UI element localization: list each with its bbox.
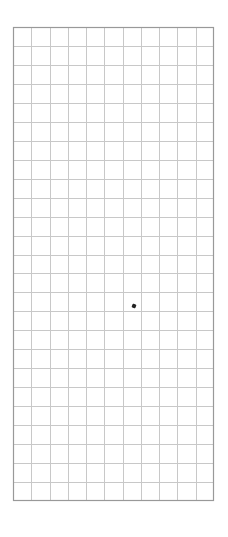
grid-canvas[interactable] xyxy=(13,27,214,501)
grid-border xyxy=(14,28,214,501)
grid-lines xyxy=(13,27,214,501)
